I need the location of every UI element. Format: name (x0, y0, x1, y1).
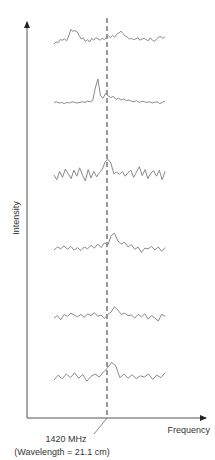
annotation-leader-line (94, 418, 107, 434)
annotation-wavelength: (Wavelength = 21.1 cm) (14, 447, 109, 457)
y-axis-label: Intensity (11, 201, 21, 235)
spectrum-line-4 (54, 233, 165, 252)
spectrum-line-2 (54, 79, 165, 104)
x-axis-label: Frequency (167, 425, 210, 435)
chart-canvas: Intensity Frequency 1420 MHz (Wavelength… (0, 0, 215, 460)
spectrum-line-1 (54, 29, 165, 43)
spectrum-line-3 (54, 159, 165, 181)
annotation-frequency: 1420 MHz (45, 434, 87, 444)
spectra-group (54, 29, 165, 381)
spectrum-line-5 (54, 307, 165, 321)
spectrum-line-6 (54, 363, 165, 382)
